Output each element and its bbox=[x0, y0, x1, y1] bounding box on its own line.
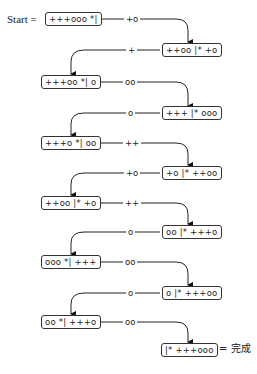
move-label-3: o bbox=[126, 108, 135, 118]
edge-5 bbox=[71, 173, 160, 195]
edge-2 bbox=[100, 82, 188, 106]
state-box-8: ooo *| +++ bbox=[41, 255, 101, 269]
state-box-9: o |* +++oo bbox=[162, 286, 222, 300]
move-label-2: oo bbox=[123, 77, 137, 87]
edge-0 bbox=[101, 19, 188, 42]
edge-3 bbox=[71, 113, 160, 135]
state-box-5: +o |* ++oo bbox=[162, 166, 222, 180]
start-label: Start = bbox=[7, 12, 37, 26]
move-label-9: o bbox=[126, 288, 135, 298]
edge-7 bbox=[71, 232, 160, 254]
state-box-0: +++ooo *| bbox=[45, 12, 102, 26]
move-label-0: +o bbox=[124, 14, 140, 24]
move-label-5: +o bbox=[124, 168, 140, 178]
state-box-11: |* +++ooo bbox=[161, 343, 218, 357]
state-box-7: oo |* +++o bbox=[162, 225, 222, 239]
state-box-3: +++ |* ooo bbox=[162, 106, 222, 120]
state-box-1: ++oo |* +o bbox=[162, 43, 222, 57]
move-label-8: oo bbox=[123, 257, 137, 267]
edge-6 bbox=[100, 203, 188, 224]
edge-10 bbox=[100, 322, 188, 342]
move-label-1: + bbox=[126, 45, 137, 55]
state-box-2: +++oo *| o bbox=[41, 75, 101, 89]
edge-1 bbox=[71, 50, 160, 74]
move-label-10: oo bbox=[123, 317, 137, 327]
move-label-4: ++ bbox=[123, 138, 141, 148]
state-box-4: +++o *| oo bbox=[41, 136, 101, 150]
edge-4 bbox=[100, 143, 188, 165]
move-label-7: o bbox=[126, 227, 135, 237]
move-label-6: ++ bbox=[123, 198, 141, 208]
done-label: = 完成 bbox=[219, 342, 251, 356]
state-box-6: ++oo |* +o bbox=[41, 196, 101, 210]
edge-8 bbox=[100, 262, 188, 285]
state-box-10: oo *| +++o bbox=[41, 315, 101, 329]
edge-9 bbox=[71, 293, 160, 314]
